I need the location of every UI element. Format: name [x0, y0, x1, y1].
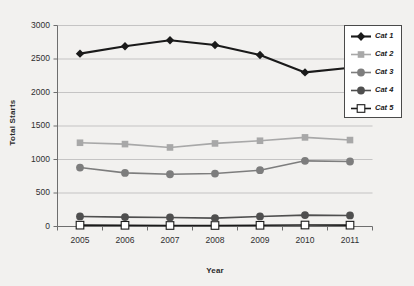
- x-axis-tick-label: 2011: [330, 235, 370, 245]
- legend-label: Cat 2: [375, 49, 393, 58]
- data-point-marker: [166, 222, 174, 230]
- data-point-marker: [212, 140, 219, 147]
- y-axis-tick-label: 0: [14, 221, 50, 231]
- data-point-marker: [302, 134, 309, 141]
- data-point-marker: [301, 68, 309, 76]
- data-point-marker: [76, 164, 84, 172]
- data-point-marker: [346, 212, 354, 220]
- data-point-marker: [76, 49, 84, 57]
- data-point-marker: [166, 36, 174, 44]
- y-axis-tick-label: 1000: [14, 154, 50, 164]
- legend-label: Cat 3: [375, 67, 393, 76]
- legend-marker-circle-icon: [349, 64, 373, 81]
- legend-label: Cat 5: [375, 103, 393, 112]
- data-point-marker: [166, 170, 174, 178]
- data-point-marker: [211, 41, 219, 49]
- data-point-marker: [301, 157, 309, 165]
- data-point-marker: [211, 214, 219, 222]
- data-point-marker: [346, 158, 354, 166]
- y-axis-tick-label: 1500: [14, 120, 50, 130]
- data-point-marker: [347, 137, 354, 144]
- data-point-marker: [211, 170, 219, 178]
- y-axis-tick-label: 2000: [14, 87, 50, 97]
- x-axis-tick-label: 2007: [150, 235, 190, 245]
- data-point-marker: [76, 213, 84, 221]
- x-axis-tick-label: 2008: [195, 235, 235, 245]
- data-point-marker: [346, 221, 354, 229]
- legend-item-cat-5[interactable]: Cat 5: [348, 100, 402, 117]
- legend-marker-circle-icon: [349, 82, 373, 99]
- legend-item-cat-2[interactable]: Cat 2: [348, 46, 402, 63]
- legend-label: Cat 1: [375, 31, 393, 40]
- data-point-marker: [121, 213, 129, 221]
- data-point-marker: [256, 213, 264, 221]
- x-axis-tick-label: 2009: [240, 235, 280, 245]
- data-point-marker: [121, 169, 129, 177]
- x-axis-tick-label: 2006: [105, 235, 145, 245]
- data-point-marker: [121, 42, 129, 50]
- y-axis-tick-label: 3000: [14, 20, 50, 30]
- line-chart: Total Starts Year 0500100015002000250030…: [0, 0, 414, 286]
- data-point-marker: [257, 137, 264, 144]
- data-point-marker: [166, 214, 174, 222]
- legend: Cat 1 Cat 2 Cat 3 Cat 4 Cat 5: [344, 25, 402, 118]
- data-point-marker: [167, 144, 174, 151]
- x-axis-title: Year: [57, 266, 373, 275]
- legend-label: Cat 4: [375, 85, 393, 94]
- data-point-marker: [256, 166, 264, 174]
- legend-marker-diamond-icon: [349, 28, 373, 45]
- legend-marker-square-open-icon: [349, 100, 373, 117]
- data-point-marker: [76, 221, 84, 229]
- data-point-marker: [301, 211, 309, 219]
- legend-marker-square-icon: [349, 46, 373, 63]
- data-point-marker: [301, 221, 309, 229]
- y-axis-tick-label: 2500: [14, 53, 50, 63]
- data-point-marker: [256, 221, 264, 229]
- legend-item-cat-4[interactable]: Cat 4: [348, 82, 402, 99]
- data-point-marker: [122, 141, 129, 148]
- data-point-marker: [211, 222, 219, 230]
- data-point-marker: [121, 221, 129, 229]
- x-axis-tick-label: 2010: [285, 235, 325, 245]
- data-point-marker: [256, 51, 264, 59]
- x-axis-tick-label: 2005: [60, 235, 100, 245]
- legend-item-cat-3[interactable]: Cat 3: [348, 64, 402, 81]
- legend-item-cat-1[interactable]: Cat 1: [348, 28, 402, 45]
- data-point-marker: [77, 139, 84, 146]
- y-axis-tick-label: 500: [14, 187, 50, 197]
